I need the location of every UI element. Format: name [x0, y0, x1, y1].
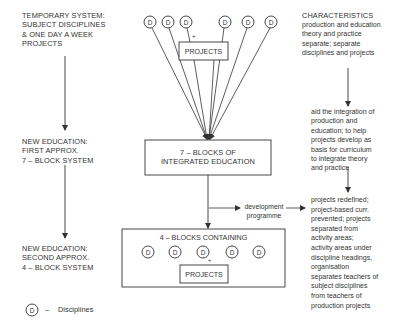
svg-text:D: D [166, 19, 171, 26]
characteristics-heading: CHARACTERISTICS [302, 11, 399, 20]
characteristics-first: production and education theory and prac… [302, 20, 399, 58]
svg-text:D: D [246, 19, 251, 26]
svg-text:D: D [146, 249, 151, 256]
characteristics-third: projects redefined; project-based curr. … [311, 195, 399, 310]
characteristics-second: aid the integration of production and ed… [311, 107, 399, 173]
top-discipline-letters: D D D D D D [148, 19, 274, 26]
education-system-diagram: D D D D D D + PROJECTS [0, 0, 399, 332]
svg-text:D: D [148, 19, 153, 26]
stage-second-approx: NEW EDUCATION: SECOND APPROX. 4 – BLOCK … [22, 244, 132, 272]
svg-text:D: D [269, 19, 274, 26]
stage-temporary-system: TEMPORARY SYSTEM: SUBJECT DISCIPLINES & … [22, 11, 132, 49]
development-programme-label: development programme [241, 203, 287, 220]
box4-projects-label: PROJECTS [185, 271, 223, 278]
legend-label: Disciplines [58, 305, 93, 314]
svg-text:D: D [230, 249, 235, 256]
top-discipline-circles [144, 16, 277, 28]
svg-text:D: D [201, 249, 206, 256]
svg-text:D: D [30, 307, 35, 314]
box4-plus-mark: + [208, 257, 211, 263]
stage-first-approx: NEW EDUCATION: FIRST APPROX. 7 – BLOCK S… [22, 137, 132, 165]
legend-dash: – [45, 305, 49, 314]
svg-text:D: D [173, 249, 178, 256]
top-projects-label: PROJECTS [185, 48, 223, 55]
svg-text:D: D [184, 19, 189, 26]
box-7-label: 7 – BLOCKS OF INTEGRATED EDUCATION [145, 148, 271, 167]
svg-text:D: D [257, 249, 262, 256]
svg-text:D: D [223, 19, 228, 26]
box4-title: 4 – BLOCKS CONTAINING [160, 233, 248, 242]
top-plus-mark: + [192, 33, 196, 39]
